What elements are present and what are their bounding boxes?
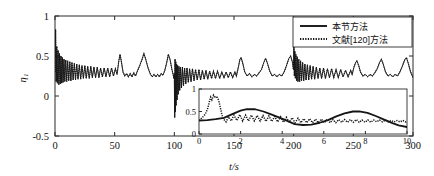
y-tick-label: 0 [44, 91, 49, 102]
legend: 本节方法 文献[120]方法 [293, 17, 412, 47]
inset-axes [199, 89, 407, 134]
inset-y-tick-label: 0.5 [185, 107, 196, 117]
inset-x-tick-label: 8 [363, 136, 367, 146]
y-tick-label: 1 [44, 11, 49, 22]
y-tick-label: -0.5 [32, 131, 49, 142]
inset-y-tick-label: 0 [192, 129, 196, 139]
inset-y-tick-label: 1 [192, 84, 196, 94]
inset-x-tick-label: 4 [280, 136, 285, 146]
inset-x-tick-label: 2 [238, 136, 242, 146]
x-tick-label: 0 [52, 140, 57, 151]
inset-x-tick-label: 0 [197, 136, 201, 146]
inset-x-tick-label: 6 [322, 136, 326, 146]
inset-x-tick-label: 10 [403, 136, 412, 146]
legend-label-proposed-method: 本节方法 [332, 21, 368, 32]
figure-container: 050100150200250300 10.50-0.5 t/s η₁ 本节方法… [0, 0, 434, 176]
y-axis-title: η₁ [17, 74, 28, 83]
eta1-time-history-chart: 050100150200250300 10.50-0.5 t/s η₁ 本节方法… [0, 0, 434, 176]
inset-plot-frame [199, 89, 407, 134]
x-tick-label: 50 [109, 140, 120, 151]
x-tick-label: 100 [166, 140, 182, 151]
x-tick-label: 250 [345, 140, 361, 151]
x-axis-title: t/s [229, 161, 239, 172]
legend-label-reference-method: 文献[120]方法 [332, 34, 388, 45]
x-tick-label: 200 [286, 140, 302, 151]
y-tick-label: 0.5 [36, 51, 49, 62]
main-y-tick-labels: 10.50-0.5 [32, 11, 49, 142]
